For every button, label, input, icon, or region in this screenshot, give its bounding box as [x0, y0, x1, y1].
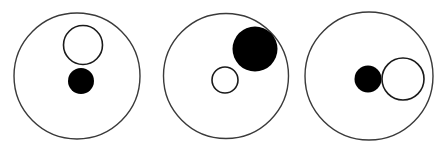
group-3-hollow-circle [382, 58, 424, 100]
group-2-hollow-circle [212, 67, 238, 93]
group-1-filled-circle [68, 68, 94, 94]
group-3-filled-circle [355, 66, 382, 93]
group-1-hollow-circle [64, 26, 103, 65]
figure-canvas [0, 0, 447, 151]
group-2-filled-circle [233, 27, 278, 72]
circles-figure [0, 0, 447, 151]
